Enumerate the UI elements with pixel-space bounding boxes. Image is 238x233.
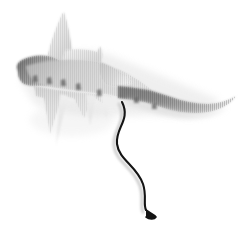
lower-haze	[30, 104, 114, 136]
image-canvas: Stylized fish-dragon creature Pale gray …	[0, 0, 238, 233]
creature-illustration	[0, 0, 238, 233]
